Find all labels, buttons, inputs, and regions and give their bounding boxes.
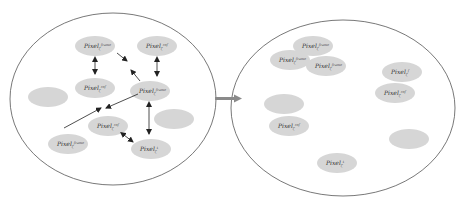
pixel-node: Pixelζref	[88, 116, 128, 136]
unlabeled-node	[264, 94, 304, 114]
pixel-node: Pixelζframe	[75, 36, 115, 56]
diagram-canvas: PixelζframePixelζrefPixelζrefPixelζframe…	[0, 0, 459, 198]
pixel-node: Pixelζt	[131, 139, 171, 159]
pixel-node: Pixelζframe	[48, 134, 88, 154]
pixel-node: Pixelζframe	[306, 56, 346, 76]
pixel-node: Pixelζframe	[270, 50, 310, 70]
pixel-node: Pixelζf	[382, 62, 422, 82]
pixel-node: Pixelζref	[137, 36, 177, 56]
pixel-node: Pixelζref	[269, 116, 309, 136]
pixel-node: Pixelζframe	[130, 81, 170, 101]
pixel-node: Pixelζt	[317, 153, 357, 173]
unlabeled-node	[389, 129, 429, 149]
unlabeled-node	[154, 109, 194, 129]
unlabeled-node	[28, 87, 68, 107]
pixel-node: Pixelζref	[75, 78, 115, 98]
pixel-node: Pixelζref	[375, 83, 415, 103]
